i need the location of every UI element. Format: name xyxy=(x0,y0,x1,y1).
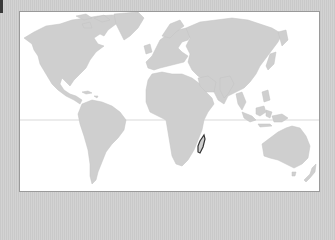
land-australia xyxy=(262,126,310,168)
land-new-zealand xyxy=(304,164,316,182)
land-south-america xyxy=(78,100,126,184)
land-british-isles xyxy=(144,44,152,54)
world-map: Madagascar xyxy=(19,11,320,192)
land-greenland xyxy=(114,12,144,40)
land-caribbean xyxy=(82,91,98,98)
land-kamchatka xyxy=(278,30,288,46)
corner-strip xyxy=(0,0,3,13)
land-india xyxy=(220,76,234,98)
land-southeast-asia xyxy=(236,90,288,127)
map-canvas xyxy=(20,12,320,192)
land-north-america xyxy=(24,15,124,104)
land-tasmania xyxy=(292,172,296,176)
